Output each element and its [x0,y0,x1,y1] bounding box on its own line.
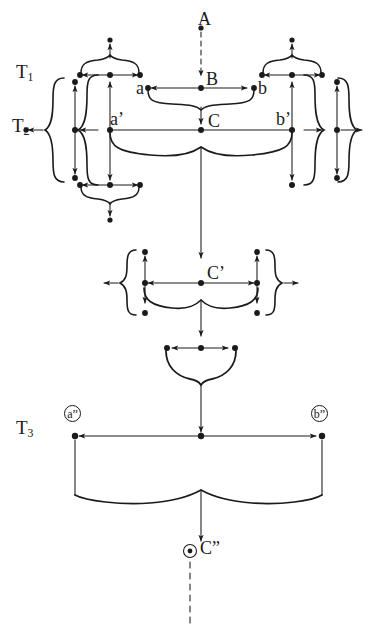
node-label-C-prime: C’ [207,264,225,282]
node-label-A: A [198,10,211,28]
circled-label-b-doubleprime: b” [311,405,328,422]
small-cluster [166,348,236,432]
node-label-C-doubleprime: C” [200,539,220,557]
figure-canvas: T1 T2 T3 A B a b C a’ b’ C’ C” a” b” [0,0,374,632]
node-label-C: C [208,112,220,130]
tree-diagram-svg [0,0,374,632]
node-label-b-prime: b’ [276,110,291,128]
node-label-B: B [206,70,218,88]
tier-label-t1: T1 [16,62,34,84]
node-label-a: a [136,79,144,97]
node-label-a-prime: a’ [110,110,124,128]
cprime-cluster [104,250,298,336]
circled-label-a-doubleprime: a” [64,405,81,422]
tier-label-t2: T2 [12,116,30,138]
node-label-b: b [258,79,267,97]
tier-label-t3: T3 [16,418,34,440]
terminal-Cpp [184,545,197,625]
t3-cluster [75,436,322,541]
